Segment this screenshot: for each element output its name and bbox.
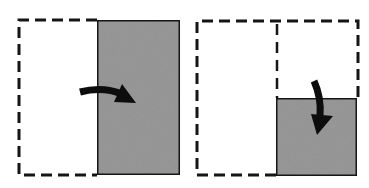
shaded-region (97, 20, 180, 175)
diagram-stage (0, 0, 369, 188)
panel-1 (19, 20, 180, 175)
panel-2 (197, 21, 358, 176)
dashed-outline (19, 20, 97, 175)
shaded-region (276, 98, 357, 176)
diagram-canvas (0, 0, 369, 188)
